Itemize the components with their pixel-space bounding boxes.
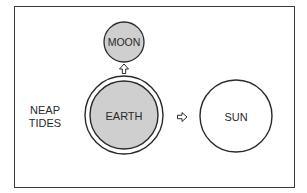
earth-label: EARTH <box>105 110 142 122</box>
hollow-arrow-up-icon <box>120 64 129 74</box>
neap-tides-diagram: MOON EARTH SUN NEAP TIDES <box>0 0 307 193</box>
hollow-arrow-right-icon <box>178 113 188 122</box>
sun: SUN <box>200 80 272 152</box>
label-line-2: TIDES <box>29 117 61 129</box>
sun-label: SUN <box>224 111 247 123</box>
neap-tides-label: NEAP TIDES <box>29 104 61 129</box>
moon: MOON <box>104 22 144 62</box>
label-line-1: NEAP <box>30 104 60 116</box>
moon-label: MOON <box>108 36 141 48</box>
earth: EARTH <box>85 76 163 154</box>
